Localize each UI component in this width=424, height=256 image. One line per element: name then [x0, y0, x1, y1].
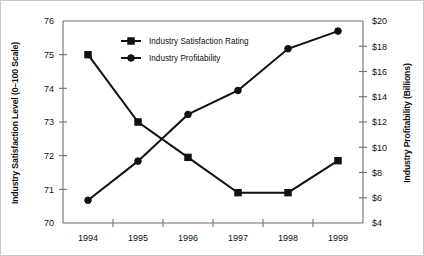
data-point-square [135, 119, 141, 125]
x-axis-label: 1999 [328, 233, 348, 243]
data-point-circle [285, 45, 292, 52]
right-tick-label: $8 [372, 168, 382, 178]
data-point-square [235, 190, 241, 196]
x-axis-label: 1994 [78, 233, 98, 243]
x-axis-label: 1996 [178, 233, 198, 243]
x-axis-label: 1998 [278, 233, 298, 243]
left-axis-title-text: Industry Satisfaction Level (0–100 Scale… [10, 42, 20, 204]
left-tick-label: 74 [44, 84, 54, 94]
data-point-circle [85, 197, 92, 204]
chart-page: Industry Satisfaction Level (0–100 Scale… [0, 0, 424, 256]
legend-item: Industry Satisfaction Rating [121, 37, 249, 46]
left-tick-label: 73 [44, 117, 54, 127]
dual-axis-line-chart: Industry Satisfaction Level (0–100 Scale… [1, 1, 424, 256]
left-axis-title: Industry Satisfaction Level (0–100 Scale… [10, 42, 20, 204]
plot-frame [63, 21, 363, 223]
left-tick-label: 76 [44, 16, 54, 26]
data-point-square [185, 154, 191, 160]
series-square [85, 51, 341, 195]
right-axis-title-text: Industry Profitability (Billions) [402, 63, 412, 183]
legend-marker-circle [128, 55, 135, 62]
right-tick-label: $4 [372, 218, 382, 228]
data-point-square [85, 51, 91, 57]
right-axis-title: Industry Profitability (Billions) [402, 63, 412, 183]
right-tick-label: $18 [372, 42, 387, 52]
legend-item: Industry Profitability [121, 54, 221, 63]
right-tick-label: $16 [372, 67, 387, 77]
plot-frame-border [63, 21, 363, 223]
left-tick-label: 72 [44, 151, 54, 161]
data-point-square [335, 158, 341, 164]
right-tick-label: $14 [372, 92, 387, 102]
data-point-circle [135, 158, 142, 165]
left-tick-label: 75 [44, 50, 54, 60]
data-point-circle [235, 87, 242, 94]
right-tick-label: $12 [372, 117, 387, 127]
data-point-circle [185, 111, 192, 118]
right-tick-label: $10 [372, 143, 387, 153]
x-axis-labels: 199419951996199719981999 [78, 233, 348, 243]
data-point-circle [335, 28, 342, 35]
legend-label: Industry Satisfaction Rating [149, 37, 249, 46]
data-point-square [285, 190, 291, 196]
right-tick-label: $6 [372, 193, 382, 203]
left-tick-label: 70 [44, 218, 54, 228]
x-axis-label: 1995 [128, 233, 148, 243]
legend-label: Industry Profitability [149, 54, 221, 63]
right-tick-label: $20 [372, 16, 387, 26]
legend-marker-square [128, 38, 134, 44]
x-axis-label: 1997 [228, 233, 248, 243]
left-tick-label: 71 [44, 185, 54, 195]
chart-legend: Industry Satisfaction RatingIndustry Pro… [121, 37, 249, 63]
